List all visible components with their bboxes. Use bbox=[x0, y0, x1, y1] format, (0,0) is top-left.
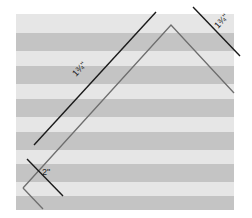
bottom-measure-label: 2" bbox=[42, 167, 50, 177]
stripe bbox=[16, 33, 234, 51]
stripe bbox=[16, 99, 234, 117]
fabric-diagram: 1¾" 1¾" 2" bbox=[0, 0, 252, 218]
stripe bbox=[16, 132, 234, 150]
stripe bbox=[16, 196, 234, 210]
